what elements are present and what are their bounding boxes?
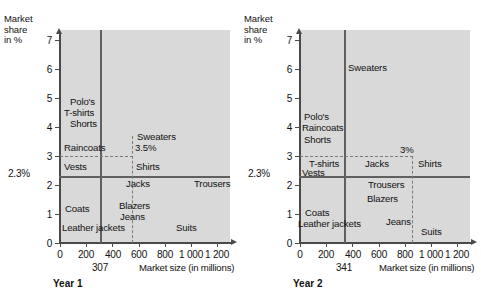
- x-tick: [191, 243, 192, 247]
- data-label: Jacks: [365, 158, 389, 169]
- data-label: Shorts: [70, 118, 97, 129]
- x-tick: [139, 243, 140, 247]
- y-tick-label: 4: [276, 122, 292, 133]
- y-tick-label: 7: [276, 35, 292, 46]
- y-tick-label: 2: [276, 180, 292, 191]
- threshold-line-market-size: [344, 30, 346, 243]
- x-tick-label: 200: [314, 249, 338, 260]
- x-tick-label: 200: [74, 249, 98, 260]
- x-tick-label: 0: [50, 249, 70, 260]
- chart-year-1: Market share in % 0 1 2 3 4 5 6 7 0 200 …: [0, 0, 241, 302]
- x-tick-label: 1 200: [442, 249, 472, 260]
- dashed-line-horizontal: [60, 156, 133, 157]
- data-label: Vests: [64, 161, 87, 172]
- data-label: Raincoats: [302, 122, 343, 133]
- data-label: Blazers: [367, 193, 398, 204]
- market-size-threshold-label: 307: [85, 262, 115, 273]
- x-tick: [431, 243, 432, 247]
- x-tick: [405, 243, 406, 247]
- y-tick: [55, 185, 59, 186]
- y-tick-label: 5: [36, 93, 52, 104]
- x-axis-title: Market size (in millions): [379, 262, 474, 273]
- x-axis-arrow-icon: [471, 239, 477, 245]
- data-label: Shirts: [418, 158, 442, 169]
- y-tick: [55, 40, 59, 41]
- y-tick-label: 2: [36, 180, 52, 191]
- y-tick: [55, 127, 59, 128]
- data-label: Jeans: [120, 211, 145, 222]
- x-tick-label: 600: [127, 249, 151, 260]
- data-label: T-shirts: [64, 107, 94, 118]
- y-tick-label: 1: [276, 209, 292, 220]
- data-label: Coats: [305, 207, 329, 218]
- y-tick-label: 5: [276, 93, 292, 104]
- data-label: Shorts: [304, 134, 331, 145]
- x-axis-line: [59, 242, 231, 244]
- data-label: Jacks: [126, 178, 150, 189]
- threshold-line-market-size: [100, 30, 102, 243]
- data-label: Leather jackets: [298, 218, 361, 229]
- y-axis-line: [299, 34, 301, 243]
- x-tick-label: 400: [101, 249, 125, 260]
- data-label: Trousers: [194, 178, 230, 189]
- x-tick: [457, 243, 458, 247]
- y-tick: [295, 185, 299, 186]
- market-share-threshold-label: 2.3%: [8, 168, 30, 179]
- data-label: 3.5%: [135, 142, 156, 153]
- x-tick: [165, 243, 166, 247]
- market-share-threshold-label: 2.3%: [248, 168, 270, 179]
- data-label: Trousers: [368, 179, 404, 190]
- x-tick-label: 0: [290, 249, 310, 260]
- data-label: Suits: [176, 222, 197, 233]
- x-tick-label: 1 200: [202, 249, 232, 260]
- y-axis-line: [59, 34, 61, 243]
- y-tick-label: 6: [276, 64, 292, 75]
- x-axis-line: [299, 242, 471, 244]
- y-tick-label: 3: [276, 151, 292, 162]
- x-tick-label: 800: [153, 249, 177, 260]
- market-size-threshold-label: 341: [329, 262, 359, 273]
- y-tick: [295, 40, 299, 41]
- y-axis-arrow-icon: [296, 28, 302, 34]
- dashed-line-vertical: [412, 156, 413, 243]
- data-label: 3%: [400, 144, 414, 155]
- y-tick: [55, 243, 59, 244]
- data-label: Polo's: [70, 96, 95, 107]
- x-tick: [112, 243, 113, 247]
- y-tick-label: 0: [276, 238, 292, 249]
- y-tick: [55, 69, 59, 70]
- data-label: Suits: [421, 226, 442, 237]
- y-tick-label: 7: [36, 35, 52, 46]
- y-tick: [295, 127, 299, 128]
- y-tick: [55, 98, 59, 99]
- x-axis-title: Market size (in millions): [139, 262, 234, 273]
- data-label: Sweaters: [348, 62, 387, 73]
- y-tick: [295, 98, 299, 99]
- y-tick-label: 3: [36, 151, 52, 162]
- x-tick-label: 600: [367, 249, 391, 260]
- y-tick: [55, 214, 59, 215]
- x-tick: [86, 243, 87, 247]
- dashed-line-vertical: [132, 136, 133, 243]
- y-tick: [295, 243, 299, 244]
- y-tick-label: 6: [36, 64, 52, 75]
- data-label: Coats: [65, 203, 89, 214]
- y-tick-label: 0: [36, 238, 52, 249]
- chart-title: Year 1: [53, 278, 82, 289]
- chart-title: Year 2: [293, 278, 322, 289]
- y-tick: [295, 69, 299, 70]
- x-tick: [352, 243, 353, 247]
- data-label: Polo's: [304, 111, 329, 122]
- y-tick: [295, 214, 299, 215]
- x-tick: [326, 243, 327, 247]
- y-tick-label: 1: [36, 209, 52, 220]
- data-label: Jeans: [386, 216, 411, 227]
- y-axis-arrow-icon: [56, 28, 62, 34]
- data-label: Blazers: [119, 200, 150, 211]
- dashed-line-horizontal: [300, 156, 413, 157]
- y-tick-label: 4: [36, 122, 52, 133]
- y-tick: [295, 156, 299, 157]
- x-tick: [60, 243, 61, 247]
- data-label: Vests: [302, 167, 325, 178]
- x-tick-label: 800: [393, 249, 417, 260]
